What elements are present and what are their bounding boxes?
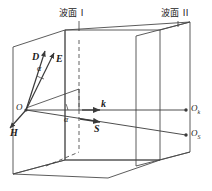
origin-point bbox=[24, 108, 27, 111]
angle-alpha-kS-label: α bbox=[64, 116, 68, 124]
oblique-upper-line bbox=[26, 89, 79, 108]
vector-k-label: k bbox=[101, 99, 106, 109]
wavefront-2-label: 波面 II bbox=[161, 9, 189, 18]
vector-H bbox=[10, 110, 26, 128]
angle-arc-kS bbox=[66, 104, 68, 110]
H-arrow bbox=[10, 110, 26, 128]
point-Ok-dot bbox=[184, 108, 187, 111]
base-outline bbox=[13, 160, 160, 178]
bottom-base-plane bbox=[13, 160, 160, 178]
vector-D-label: D bbox=[32, 52, 39, 62]
wavefront-1-label: 波面 I bbox=[59, 9, 84, 18]
wavefront-plane-2 bbox=[136, 22, 190, 166]
interior-reference-lines bbox=[26, 89, 79, 110]
point-O-dot bbox=[24, 108, 27, 111]
top-right-edges bbox=[65, 22, 190, 160]
point-Os-label: OS bbox=[191, 129, 201, 140]
alpha-kS-arc bbox=[66, 104, 68, 110]
point-Ok-label: Ok bbox=[191, 104, 200, 115]
point-Os-sub: S bbox=[198, 134, 201, 140]
S-baseline bbox=[26, 110, 186, 135]
point-Os-dot bbox=[184, 133, 187, 136]
wavefront-2-outline bbox=[136, 22, 190, 166]
vector-E bbox=[26, 53, 54, 110]
vector-S bbox=[26, 110, 188, 137]
bottom-edge-to-plane2 bbox=[160, 152, 190, 160]
S-arrow bbox=[80, 119, 100, 122]
vector-H-label: H bbox=[10, 128, 18, 138]
diagram-canvas bbox=[0, 0, 212, 191]
point-Ok-sub: k bbox=[198, 109, 201, 115]
vector-E-label: E bbox=[56, 54, 63, 64]
E-arrow bbox=[26, 53, 54, 110]
top-edge-to-plane2 bbox=[65, 22, 190, 30]
vector-S-label: S bbox=[94, 124, 100, 134]
physics-diagram-figure: 波面 I 波面 II D E H k S α α O Ok OS bbox=[0, 0, 212, 191]
vector-k bbox=[26, 108, 188, 111]
point-O-label: O bbox=[16, 103, 23, 112]
angle-alpha-DE-label: α bbox=[37, 65, 41, 73]
